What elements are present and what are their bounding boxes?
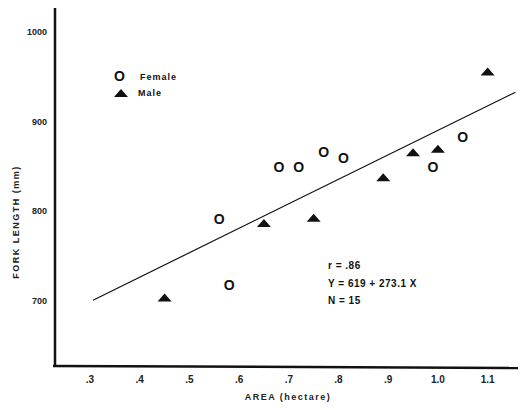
x-tick-label: .6 (235, 374, 244, 385)
female-point-circle-icon: O (273, 159, 284, 175)
x-tick-label: .3 (86, 374, 95, 385)
legend-male-label: Male (138, 88, 162, 98)
x-tick-label: .9 (384, 374, 393, 385)
n-text: N = 15 (328, 295, 361, 306)
legend-female-label: Female (140, 72, 177, 82)
male-point-triangle-icon (307, 214, 321, 222)
male-point-triangle-icon (257, 219, 271, 227)
x-tick-label: .7 (285, 374, 294, 385)
y-tick-labels: 7008009001000 (27, 27, 47, 306)
female-point-circle-icon: O (224, 277, 235, 293)
female-point-circle-icon: O (214, 211, 225, 227)
x-axis-label: AREA (hectare) (245, 392, 332, 402)
regression-line (93, 92, 515, 300)
legend-female-icon: O (114, 68, 125, 84)
x-axis (53, 366, 518, 368)
scatter-chart: 7008009001000 .3.4.5.6.7.8.91.01.1 FORK … (0, 0, 528, 410)
male-point-triangle-icon (406, 148, 420, 156)
x-tick-label: 1.0 (431, 374, 445, 385)
male-point-triangle-icon (481, 68, 495, 76)
female-point-circle-icon: O (293, 159, 304, 175)
male-point-triangle-icon (376, 173, 390, 181)
data-points: OOOOOOOO (158, 68, 495, 302)
female-point-circle-icon: O (338, 150, 349, 166)
y-tick-label: 800 (32, 206, 47, 216)
male-point-triangle-icon (158, 293, 172, 301)
stats-annotation: r = .86 Y = 619 + 273.1 X N = 15 (328, 260, 417, 306)
equation-text: Y = 619 + 273.1 X (328, 278, 417, 289)
x-tick-labels: .3.4.5.6.7.8.91.01.1 (86, 374, 495, 385)
y-tick-label: 700 (32, 296, 47, 306)
x-tick-label: .8 (334, 374, 343, 385)
y-tick-label: 1000 (27, 27, 47, 37)
male-point-triangle-icon (431, 145, 445, 153)
female-point-circle-icon: O (427, 159, 438, 175)
x-tick-label: .5 (185, 374, 194, 385)
x-tick-label: 1.1 (481, 374, 495, 385)
y-axis-label: FORK LENGTH (mm) (11, 165, 21, 279)
x-tick-label: .4 (136, 374, 145, 385)
legend-male-icon (114, 89, 128, 97)
legend: O Female Male (114, 68, 177, 98)
female-point-circle-icon: O (457, 129, 468, 145)
y-tick-label: 900 (32, 117, 47, 127)
correlation-text: r = .86 (328, 260, 361, 271)
female-point-circle-icon: O (318, 144, 329, 160)
